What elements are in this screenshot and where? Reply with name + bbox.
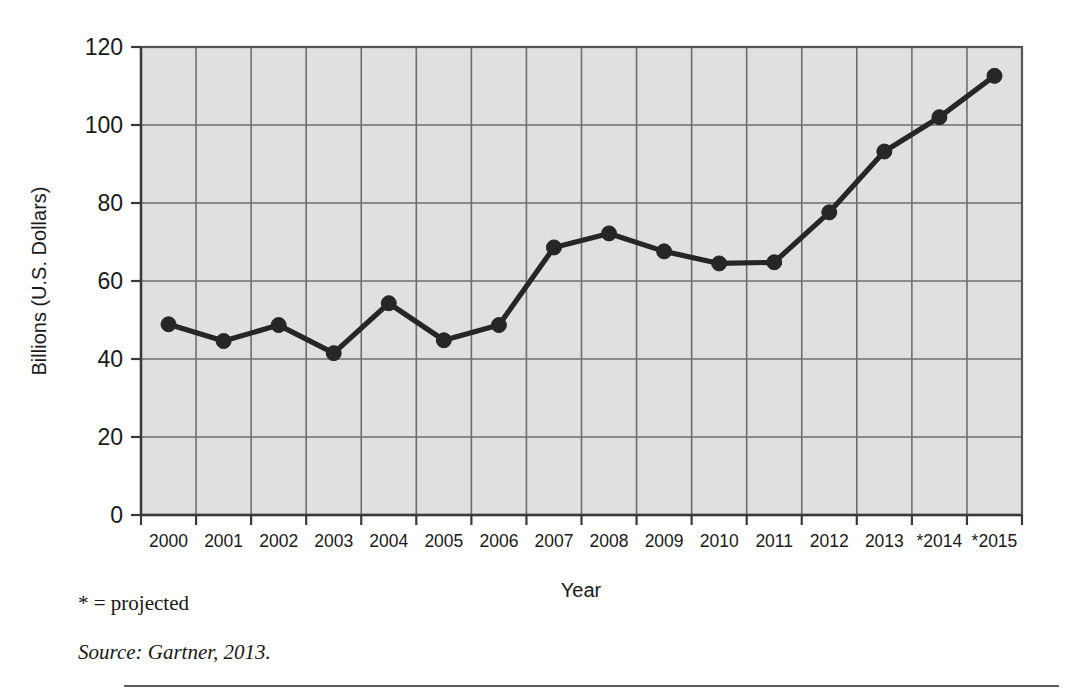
x-axis-tick-label: 2004: [369, 531, 408, 551]
y-axis-ticks: [131, 47, 141, 515]
x-axis-tick-label: 2011: [755, 531, 793, 551]
footnote-source: Source: Gartner, 2013.: [78, 640, 271, 665]
data-point-marker: [161, 317, 176, 332]
data-point-marker: [877, 144, 892, 159]
x-axis-tick-label: 2007: [535, 531, 574, 551]
x-axis-tick-label: 2005: [424, 531, 463, 551]
y-axis-tick-label: 60: [97, 268, 123, 294]
x-axis-tick-label: 2002: [259, 531, 298, 551]
figure-container: 020406080100120 200020012002200320042005…: [0, 0, 1078, 696]
x-axis-tick-label: 2008: [590, 531, 629, 551]
x-axis-tick-labels: 2000200120022003200420052006200720082009…: [149, 531, 1017, 551]
data-point-marker: [216, 334, 231, 349]
y-axis-tick-labels: 020406080100120: [85, 34, 123, 528]
data-point-marker: [657, 244, 672, 259]
x-axis-title: Year: [561, 579, 602, 601]
data-point-marker: [602, 226, 617, 241]
data-point-marker: [712, 256, 727, 271]
y-axis-tick-label: 80: [97, 190, 123, 216]
x-axis-tick-label: *2015: [972, 531, 1018, 551]
data-point-marker: [326, 346, 341, 361]
x-axis-tick-label: *2014: [917, 531, 963, 551]
line-chart: 020406080100120 200020012002200320042005…: [0, 0, 1078, 620]
data-point-marker: [436, 333, 451, 348]
x-axis-tick-label: 2012: [810, 531, 849, 551]
y-axis-tick-label: 120: [85, 34, 123, 60]
x-axis-tick-label: 2001: [204, 531, 243, 551]
bottom-divider-rule: [124, 685, 1059, 687]
y-axis-title: Billions (U.S. Dollars): [28, 187, 50, 376]
x-axis-tick-label: 2010: [700, 531, 739, 551]
data-point-marker: [767, 255, 782, 270]
x-axis-tick-label: 2009: [645, 531, 684, 551]
y-axis-tick-label: 20: [97, 424, 123, 450]
data-point-marker: [381, 296, 396, 311]
x-axis-tick-label: 2006: [479, 531, 518, 551]
data-point-marker: [491, 318, 506, 333]
y-axis-tick-label: 40: [97, 346, 123, 372]
data-point-marker: [546, 240, 561, 255]
data-point-marker: [271, 318, 286, 333]
y-axis-tick-label: 100: [85, 112, 123, 138]
data-point-marker: [932, 110, 947, 125]
footnote-projected: * = projected: [78, 591, 189, 616]
data-point-marker: [822, 205, 837, 220]
x-axis-tick-label: 2003: [314, 531, 353, 551]
x-axis-ticks: [141, 515, 1022, 525]
x-axis-tick-label: 2000: [149, 531, 188, 551]
x-axis-tick-label: 2013: [865, 531, 904, 551]
y-axis-tick-label: 0: [110, 502, 123, 528]
data-point-marker: [987, 68, 1002, 83]
